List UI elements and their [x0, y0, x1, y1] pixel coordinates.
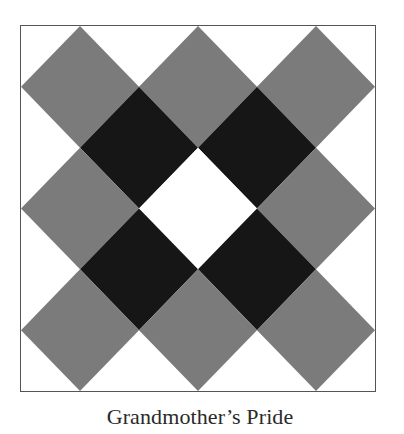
- quilt-block-frame: [20, 25, 376, 392]
- quilt-block-pattern: [21, 26, 375, 391]
- figure-caption: Grandmother’s Pride: [0, 404, 400, 430]
